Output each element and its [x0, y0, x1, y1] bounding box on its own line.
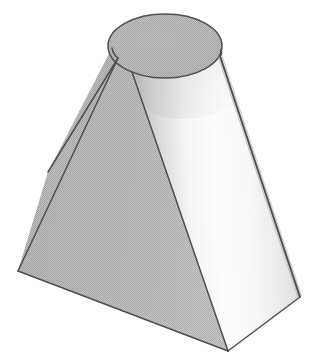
- solid-body: [18, 48, 300, 351]
- top-cap-group: [108, 14, 222, 78]
- render-canvas: Truncated square-base pyramid blended in…: [0, 0, 316, 360]
- shape-3d-illustration: [0, 0, 316, 360]
